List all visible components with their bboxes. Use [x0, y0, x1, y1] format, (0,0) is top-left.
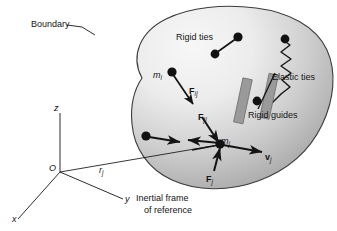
- symbol-force-j-sub: j: [212, 178, 214, 185]
- symbol-mass-i: mi: [153, 64, 162, 82]
- axis-label-y: y: [125, 194, 130, 204]
- axis-label-z: z: [54, 103, 59, 113]
- symbol-mass-j: mj: [221, 130, 230, 148]
- symbol-force-ij: Fij: [189, 80, 198, 98]
- label-rigid-guides: Rigid guides: [248, 110, 298, 120]
- label-inertial-frame-line1: Inertial frame: [136, 193, 189, 203]
- symbol-force-ij-sub: ij: [195, 90, 198, 97]
- label-boundary: Boundary: [31, 19, 70, 29]
- symbol-mass-j-base: m: [221, 136, 229, 146]
- label-elastic-ties: Elastic ties: [272, 72, 315, 82]
- coordinate-axes: [18, 113, 123, 219]
- mechanics-diagram-figure: Boundary Rigid ties Elastic ties Rigid g…: [0, 0, 337, 231]
- boundary-leader-line: [67, 25, 95, 35]
- label-inertial-frame-line2: of reference: [144, 205, 192, 215]
- symbol-velocity-j-sub: j: [270, 156, 272, 163]
- symbol-velocity-j: vj: [265, 146, 272, 164]
- symbol-force-ji: Fji: [198, 106, 207, 124]
- symbol-mass-i-base: m: [153, 70, 161, 80]
- symbol-force-j: Fj: [206, 168, 213, 186]
- label-rigid-ties: Rigid ties: [176, 32, 213, 42]
- symbol-mass-i-sub: i: [161, 74, 163, 81]
- axis-label-x: x: [12, 214, 17, 224]
- axis-label-origin: O: [49, 163, 56, 173]
- symbol-position-rj-sub: j: [102, 169, 104, 176]
- symbol-force-ji-sub: ji: [204, 116, 207, 123]
- symbol-position-rj: rj: [99, 159, 104, 177]
- symbol-mass-j-sub: j: [229, 140, 231, 147]
- particle-system-boundary: [131, 6, 333, 188]
